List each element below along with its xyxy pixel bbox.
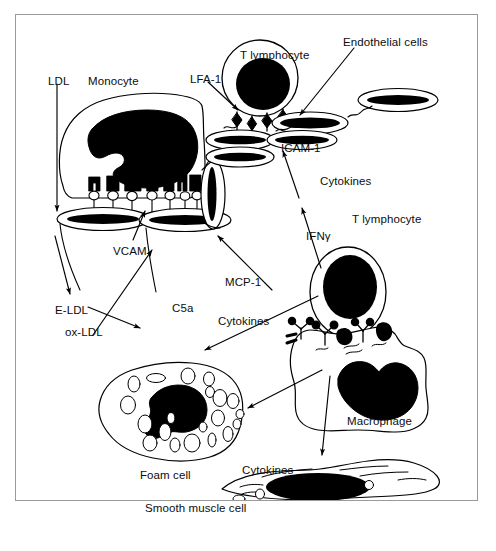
arrow-icam1 <box>283 151 299 198</box>
endothelial-cell-under-tcell-b <box>206 147 274 167</box>
label-smooth-muscle-cell: Smooth muscle cell <box>145 503 247 515</box>
label-foam-cell: Foam cell <box>140 470 191 482</box>
arrow-oxldl-to-foam <box>88 307 140 328</box>
foam-cell <box>99 362 244 461</box>
label-t-lymphocyte-right: T lymphocyte <box>352 214 421 226</box>
label-t-lymphocyte-top: T lymphocyte <box>240 50 309 62</box>
label-ldl: LDL <box>48 76 69 88</box>
t-lymphocyte-right-cell <box>310 247 386 337</box>
label-vcam: VCAM <box>113 246 147 258</box>
label-endothelial-cells: Endothelial cells <box>343 37 428 49</box>
label-c5a: C5a <box>172 303 193 315</box>
label-cytokines-top: Cytokines <box>320 176 371 188</box>
endothelial-cell-vertical <box>201 159 225 229</box>
arrow-c5a <box>93 250 152 335</box>
label-macrophage: Macrophage <box>347 416 412 428</box>
figure-root: LDL Monocyte LFA-1 T lymphocyte Endothel… <box>0 0 496 551</box>
label-cytokines-mid: Cytokines <box>218 316 269 328</box>
endothelial-cell-basal-left <box>57 208 149 231</box>
label-icam-1: ICAM-1 <box>281 143 321 155</box>
label-ifn-gamma: IFNγ <box>306 231 331 243</box>
label-monocyte: Monocyte <box>88 76 139 88</box>
arrow-ldl-to-eldl <box>55 236 70 294</box>
label-e-ldl: E-LDL <box>55 305 88 317</box>
label-mcp-1: MCP-1 <box>225 277 261 289</box>
label-cytokines-bottom: Cytokines <box>242 465 293 477</box>
label-ox-ldl: ox-LDL <box>65 327 103 339</box>
label-lfa-1: LFA-1 <box>190 74 221 86</box>
figure-caption-fragment <box>16 533 146 545</box>
